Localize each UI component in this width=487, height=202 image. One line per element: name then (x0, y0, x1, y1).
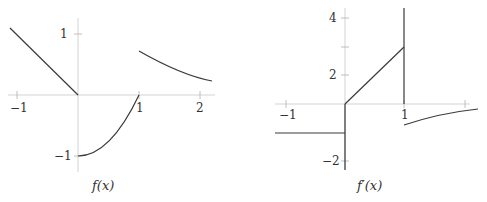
decay-segment (404, 109, 478, 125)
y-tick-label: −2 (322, 154, 340, 168)
x-tick-label: 1 (401, 108, 409, 122)
decay-segment (139, 51, 212, 81)
y-tick-label: 2 (329, 68, 337, 82)
y-tick-label: −1 (54, 149, 72, 163)
plot-f: 1 −1 −1 1 2 f(x) (8, 18, 215, 193)
x-tick-label: −1 (279, 108, 297, 122)
y-tick-label: 1 (60, 27, 68, 41)
x-tick-label: −1 (10, 101, 28, 115)
y-tick-label: 4 (329, 11, 337, 25)
caption-f-prime: f′(x) (356, 178, 382, 193)
parabola-segment (78, 95, 139, 156)
x-tick-label: 1 (136, 101, 144, 115)
linear-segment (345, 47, 404, 104)
caption-f: f(x) (91, 178, 114, 193)
plot-f-prime: 4 2 −2 −1 1 f′(x) (275, 8, 478, 193)
x-tick-label: 2 (196, 101, 204, 115)
line-segment-left (10, 28, 78, 95)
plots-canvas: 1 −1 −1 1 2 f(x) 4 2 −2 −1 1 f′(x) (0, 0, 487, 202)
